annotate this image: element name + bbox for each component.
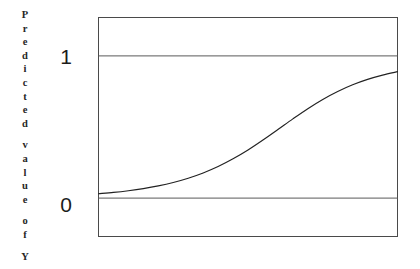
plot-area xyxy=(0,0,420,269)
logistic-curve-figure: P r e d i c t e d v a l u e o f Y 1 0 xyxy=(0,0,420,269)
logistic-curve-path xyxy=(99,72,398,194)
plot-frame xyxy=(99,18,398,237)
